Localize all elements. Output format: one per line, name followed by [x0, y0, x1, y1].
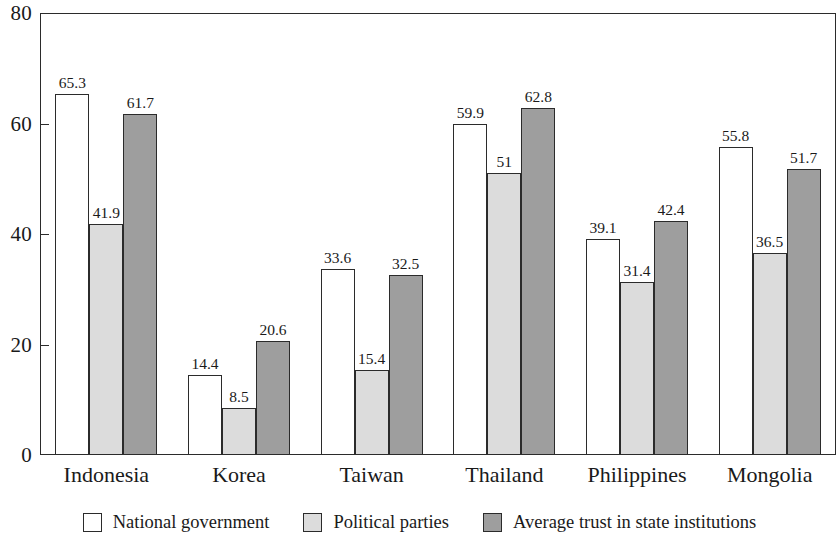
bar-value-label: 15.4 [357, 351, 386, 367]
chart-legend: National governmentPolitical partiesAver… [0, 506, 839, 538]
bar [521, 108, 555, 455]
bar [654, 221, 688, 455]
bar [389, 275, 423, 455]
x-axis-label-korea: Korea [212, 462, 266, 488]
x-axis-label-mongolia: Mongolia [727, 462, 813, 488]
bar-group: 33.615.432.5 [321, 13, 423, 455]
bar-value-label: 36.5 [755, 234, 784, 250]
bar-value-label: 31.4 [622, 263, 651, 279]
bar-value-label: 20.6 [258, 322, 287, 338]
bar-group: 39.131.442.4 [586, 13, 688, 455]
bar [719, 147, 753, 455]
bar-value-label: 51 [496, 154, 514, 170]
legend-label: Average trust in state institutions [513, 512, 756, 532]
x-axis-label-taiwan: Taiwan [339, 462, 403, 488]
bar [355, 370, 389, 455]
bar-value-label: 14.4 [190, 356, 219, 372]
x-axis-category-labels: IndonesiaKoreaTaiwanThailandPhilippinesM… [40, 462, 836, 496]
bar-value-label: 41.9 [92, 205, 121, 221]
bar [787, 169, 821, 455]
bar-value-label: 61.7 [126, 95, 155, 111]
bar-value-label: 33.6 [323, 250, 352, 266]
bar [89, 224, 123, 455]
bar [453, 124, 487, 455]
bar [55, 94, 89, 455]
y-tick-label-0: 0 [21, 445, 32, 466]
bar-group: 59.95162.8 [453, 13, 555, 455]
white-square-swatch [83, 513, 102, 532]
bar-value-label: 42.4 [656, 202, 685, 218]
bar [321, 269, 355, 455]
y-tick-label-80: 80 [11, 3, 32, 24]
bar-group: 14.48.520.6 [188, 13, 290, 455]
legend-label: Political parties [333, 512, 449, 532]
legend-item[interactable]: Political parties [303, 512, 449, 532]
bar-value-label: 55.8 [721, 128, 750, 144]
bar-value-label: 65.3 [58, 75, 87, 91]
bar-value-label: 51.7 [789, 150, 818, 166]
bar-value-label: 32.5 [391, 256, 420, 272]
bar [753, 253, 787, 455]
bar [487, 173, 521, 455]
dark-gray-square-swatch [483, 513, 502, 532]
bars-layer: 65.341.961.714.48.520.633.615.432.559.95… [40, 13, 836, 455]
light-gray-square-swatch [303, 513, 322, 532]
bar [620, 282, 654, 455]
bar-value-label: 8.5 [228, 389, 249, 405]
bar [222, 408, 256, 455]
y-tick-label-40: 40 [11, 224, 32, 245]
bar-value-label: 59.9 [456, 105, 485, 121]
y-tick-label-20: 20 [11, 334, 32, 355]
bar-value-label: 39.1 [588, 220, 617, 236]
legend-label: National government [113, 512, 270, 532]
legend-item[interactable]: National government [83, 512, 270, 532]
bar [123, 114, 157, 455]
x-axis-label-thailand: Thailand [465, 462, 543, 488]
bar [256, 341, 290, 455]
bar-chart: 020406080 65.341.961.714.48.520.633.615.… [0, 0, 839, 544]
bar-value-label: 62.8 [524, 89, 553, 105]
bar-group: 55.836.551.7 [719, 13, 821, 455]
x-axis-label-indonesia: Indonesia [64, 462, 150, 488]
bar-group: 65.341.961.7 [55, 13, 157, 455]
y-axis: 020406080 [0, 0, 40, 470]
legend-item[interactable]: Average trust in state institutions [483, 512, 756, 532]
x-axis-label-philippines: Philippines [587, 462, 686, 488]
y-tick-label-60: 60 [11, 113, 32, 134]
bar [586, 239, 620, 455]
bar [188, 375, 222, 455]
